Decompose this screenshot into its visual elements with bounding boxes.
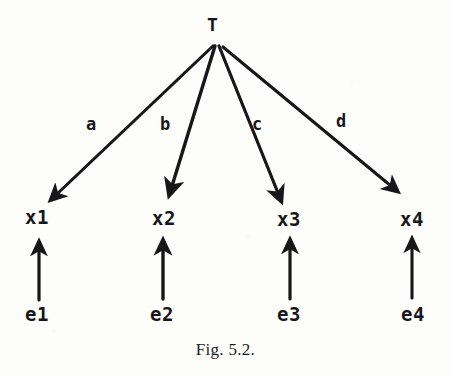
- node-label-T: T: [207, 16, 218, 34]
- node-label-x3: x3: [277, 210, 301, 229]
- edge-label-d: d: [336, 113, 346, 130]
- figure-container: T x1 x2 x3 x4 e1 e2 e3 e4 a b c d Fig. 5…: [0, 0, 451, 376]
- edge-label-b: b: [160, 116, 170, 133]
- node-label-e3: e3: [277, 305, 301, 324]
- figure-caption: Fig. 5.2.: [0, 340, 451, 360]
- node-label-e2: e2: [150, 305, 174, 324]
- edge-label-c: c: [252, 116, 262, 133]
- node-label-x4: x4: [400, 210, 424, 229]
- node-label-e4: e4: [401, 305, 425, 324]
- edge-label-a: a: [86, 116, 96, 133]
- node-label-e1: e1: [25, 305, 49, 324]
- loading-arrow-a: [57, 46, 213, 194]
- node-label-x2: x2: [152, 209, 176, 228]
- path-diagram-svg: [0, 0, 451, 376]
- loading-arrow-b: [172, 46, 215, 186]
- node-label-x1: x1: [25, 208, 49, 227]
